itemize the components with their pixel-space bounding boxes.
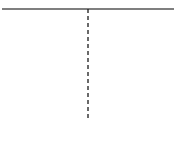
diagram-canvas [0,0,180,158]
hull-profile-diagram [0,0,180,158]
